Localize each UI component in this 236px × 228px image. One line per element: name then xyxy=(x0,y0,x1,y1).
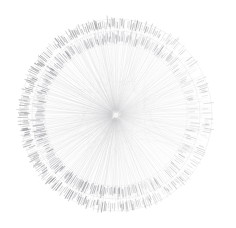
figure-root xyxy=(0,0,236,228)
radial-graph-canvas xyxy=(0,0,236,228)
